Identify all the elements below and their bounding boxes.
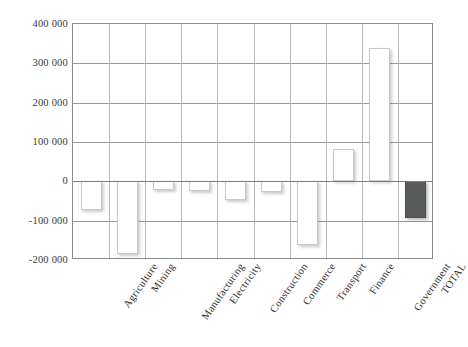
y-axis-tick-label: -200 000 — [4, 254, 68, 265]
gridline-vertical — [181, 24, 182, 258]
bar-electricity — [189, 181, 210, 191]
y-axis-tick-label: 100 000 — [4, 136, 68, 147]
bar-mining — [117, 181, 138, 254]
x-axis: AgricultureMiningManufacturingElectricit… — [72, 261, 433, 347]
gridline-vertical — [326, 24, 327, 258]
plot-area — [72, 23, 433, 259]
gridline-vertical — [290, 24, 291, 258]
gridline-vertical — [109, 24, 110, 258]
gridline-vertical — [254, 24, 255, 258]
x-axis-tick-label: Construction — [268, 261, 310, 315]
y-axis-tick-label: 300 000 — [4, 57, 68, 68]
zero-baseline — [73, 181, 432, 182]
x-axis-tick-label: Transport — [334, 261, 368, 303]
gridline-vertical — [362, 24, 363, 258]
bar-transport — [297, 181, 318, 245]
y-axis: 400 000300 000200 000100 0000-100 000-20… — [2, 0, 68, 347]
bar-government — [369, 48, 390, 181]
y-axis-tick-label: 200 000 — [4, 96, 68, 107]
y-axis-tick-label: -100 000 — [4, 214, 68, 225]
bar-finance — [333, 149, 354, 181]
x-axis-tick-label: Finance — [367, 261, 396, 296]
bar-agriculture — [81, 181, 102, 210]
y-axis-tick-label: 0 — [4, 175, 68, 186]
bar-total — [405, 181, 426, 218]
bar-manufacturing — [153, 181, 174, 190]
bar-commerce — [261, 181, 282, 192]
bar-construction — [225, 181, 246, 200]
gridline-vertical — [398, 24, 399, 258]
gridline-vertical — [217, 24, 218, 258]
gridline-vertical — [145, 24, 146, 258]
y-axis-tick-label: 400 000 — [4, 18, 68, 29]
